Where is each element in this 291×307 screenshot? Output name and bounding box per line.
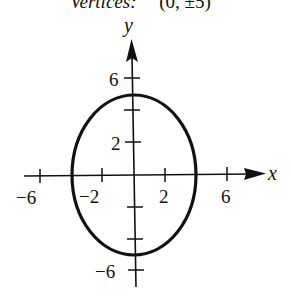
y-tick-label-neg6: −6	[95, 261, 115, 282]
y-axis: 6 2 −6 y	[95, 14, 144, 287]
x-tick-label-neg6: −6	[16, 187, 36, 208]
x-tick-label-2: 2	[159, 186, 169, 207]
x-axis-label: x	[267, 162, 277, 184]
x-tick-label-6: 6	[221, 186, 231, 207]
x-axis-arrow-icon	[244, 168, 266, 180]
y-axis-label: y	[122, 14, 133, 37]
x-axis: −6 −2 2 6 x	[16, 162, 277, 208]
y-tick-label-6: 6	[109, 69, 119, 90]
x-tick-label-neg2: −2	[79, 186, 99, 207]
y-tick-label-2: 2	[111, 133, 121, 154]
ellipse-graph: −6 −2 2 6 x 6 2 −6 y	[0, 0, 291, 307]
